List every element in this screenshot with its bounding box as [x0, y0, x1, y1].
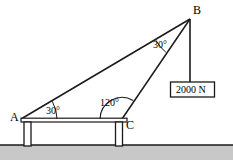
angle-label-c: 120° [100, 98, 119, 108]
vertex-label-b: B [193, 4, 201, 16]
beam-ac [21, 118, 127, 122]
vertex-label-c: C [126, 119, 134, 131]
load-box-label: 2000 N [176, 85, 206, 95]
angle-label-b: 30° [153, 40, 167, 50]
truss-diagram: A B C 30° 120° 30° 2000 N [0, 0, 233, 167]
member-cb [122, 19, 190, 119]
angle-label-a: 30° [46, 106, 60, 116]
column-right [116, 122, 123, 146]
vertex-label-a: A [10, 111, 19, 123]
column-left [24, 122, 31, 146]
ground-fill [0, 145, 233, 160]
